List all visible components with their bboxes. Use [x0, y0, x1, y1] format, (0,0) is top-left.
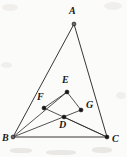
segment-CD — [64, 117, 107, 137]
vertex-point-A — [72, 22, 76, 26]
segment-EG — [67, 92, 81, 110]
point-label-C: C — [112, 134, 119, 144]
point-label-E: E — [62, 75, 69, 85]
point-label-G: G — [86, 100, 93, 110]
point-label-F: F — [37, 92, 44, 102]
point-label-B: B — [2, 133, 9, 143]
point-label-A: A — [69, 6, 76, 16]
vertex-point-E — [65, 90, 69, 94]
vertex-point-C — [105, 135, 109, 139]
geometry-figure: ABCDEFG — [0, 0, 127, 157]
point-label-D: D — [59, 120, 66, 130]
segment-BG — [13, 110, 81, 137]
vertex-point-B — [11, 135, 15, 139]
vertex-point-F — [42, 106, 46, 110]
segment-AC — [74, 24, 107, 137]
vertex-point-G — [79, 108, 83, 112]
